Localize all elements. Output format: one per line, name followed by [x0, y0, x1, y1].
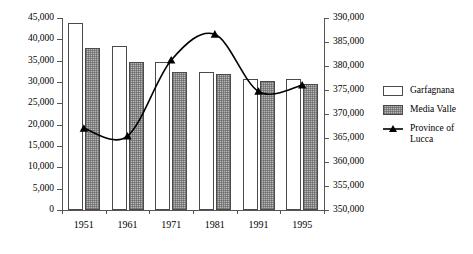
right-axis-tick-label: 360,000	[333, 157, 364, 167]
line-path	[84, 33, 302, 140]
right-axis-tick-label: 390,000	[333, 13, 364, 23]
plot-area: 05,00010,00015,00020,00025,00030,00035,0…	[62, 18, 324, 210]
right-tick	[324, 18, 329, 19]
legend-item[interactable]: Province ofLucca	[383, 123, 473, 145]
left-axis-tick-label: 20,000	[28, 120, 54, 130]
line-marker	[80, 124, 88, 132]
right-tick	[324, 42, 329, 43]
legend-swatch-media-valle	[383, 105, 403, 115]
line-series-province-of-lucca	[62, 18, 324, 210]
left-axis-tick-label: 25,000	[28, 98, 54, 108]
right-tick	[324, 186, 329, 187]
right-axis-tick-label: 355,000	[333, 181, 364, 191]
x-tick	[280, 210, 281, 214]
legend-line-marker-icon	[383, 124, 403, 134]
right-axis-tick-label: 350,000	[333, 205, 364, 215]
right-axis-tick-label: 385,000	[333, 37, 364, 47]
legend-item[interactable]: Garfagnana	[383, 85, 473, 96]
right-axis-tick-label: 380,000	[333, 61, 364, 71]
x-tick	[193, 210, 194, 214]
right-tick	[324, 90, 329, 91]
right-tick	[324, 114, 329, 115]
right-axis-tick-label: 365,000	[333, 133, 364, 143]
left-axis-tick-label: 35,000	[28, 56, 54, 66]
legend-item[interactable]: Media Valle	[383, 104, 473, 115]
left-axis-tick-label: 45,000	[28, 13, 54, 23]
legend-label: Garfagnana	[410, 85, 454, 96]
x-tick	[106, 210, 107, 214]
line-marker	[298, 81, 306, 89]
left-axis-tick-label: 10,000	[28, 162, 54, 172]
left-axis-tick-label: 5,000	[33, 184, 54, 194]
x-tick	[149, 210, 150, 214]
left-axis-tick-label: 40,000	[28, 34, 54, 44]
left-axis-tick-label: 0	[49, 205, 54, 215]
x-axis-tick-label: 1961	[118, 220, 138, 230]
right-tick	[324, 138, 329, 139]
chart-figure: 05,00010,00015,00020,00025,00030,00035,0…	[0, 0, 473, 254]
x-axis-tick-label: 1951	[74, 220, 94, 230]
right-tick	[324, 162, 329, 163]
legend-label: Province ofLucca	[410, 123, 454, 145]
right-axis-tick-label: 375,000	[333, 85, 364, 95]
x-tick	[324, 210, 325, 214]
x-tick	[237, 210, 238, 214]
legend-swatch-garfagnana	[383, 86, 403, 96]
x-axis-tick-label: 1991	[249, 220, 269, 230]
left-axis-tick-label: 30,000	[28, 77, 54, 87]
right-tick	[324, 66, 329, 67]
x-tick	[62, 210, 63, 214]
left-axis-tick-label: 15,000	[28, 141, 54, 151]
x-axis-tick-label: 1971	[161, 220, 181, 230]
right-axis-tick-label: 370,000	[333, 109, 364, 119]
chart-legend: GarfagnanaMedia ValleProvince ofLucca	[383, 85, 473, 153]
x-axis-tick-label: 1981	[205, 220, 225, 230]
x-axis-tick-label: 1995	[292, 220, 312, 230]
legend-label: Media Valle	[410, 104, 456, 115]
